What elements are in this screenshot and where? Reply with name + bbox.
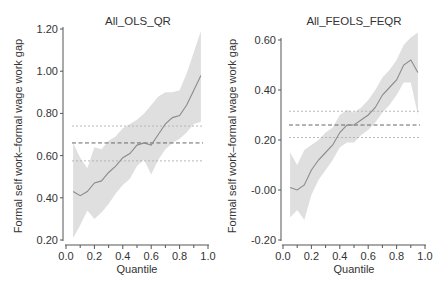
y-tick-label: 0.20 <box>255 134 276 146</box>
x-axis-label: Quantile <box>334 263 375 275</box>
x-tick-label: 0.2 <box>87 250 102 262</box>
y-tick-label: 1.20 <box>37 23 58 35</box>
y-tick-label: 0.60 <box>37 150 58 162</box>
x-tick-label: 0.0 <box>275 250 290 262</box>
x-tick-label: 0.2 <box>304 250 319 262</box>
x-tick-label: 0.4 <box>332 250 347 262</box>
panel-title: All_OLS_QR <box>105 15 171 27</box>
y-tick-label: 1.00 <box>37 65 58 77</box>
x-tick-label: 1.0 <box>200 250 215 262</box>
x-tick-label: 0.6 <box>361 250 376 262</box>
plot-area: 0.200.400.600.801.001.200.00.20.40.60.81… <box>37 23 216 262</box>
y-tick-label: 0.40 <box>255 84 276 96</box>
panel-title: All_FEOLS_FEQR <box>306 15 401 27</box>
x-tick-label: 0.8 <box>389 250 404 262</box>
y-tick-label: -0.20 <box>251 234 276 246</box>
chart-canvas: All_OLS_QR Quantile Formal self work–for… <box>0 0 447 286</box>
panel-all-ols-qr: All_OLS_QR Quantile Formal self work–for… <box>12 15 216 275</box>
plot-area: -0.20-0.000.200.400.600.00.20.40.60.81.0 <box>251 33 433 263</box>
y-axis-label: Formal self work–formal wage work gap <box>12 39 24 233</box>
confidence-band <box>290 33 418 221</box>
y-tick-label: -0.00 <box>251 184 276 196</box>
x-tick-label: 0.6 <box>144 250 159 262</box>
y-tick-label: 0.60 <box>255 34 276 46</box>
y-tick-label: 0.40 <box>37 192 58 204</box>
panel-all-feols-feqr: All_FEOLS_FEQR Quantile Formal self work… <box>226 15 433 275</box>
x-tick-label: 1.0 <box>417 250 432 262</box>
x-tick-label: 0.0 <box>58 250 73 262</box>
y-tick-label: 0.80 <box>37 107 58 119</box>
confidence-band <box>73 31 201 238</box>
y-axis-label: Formal self work–formal wage work gap <box>226 39 238 233</box>
x-axis-label: Quantile <box>117 263 158 275</box>
y-tick-label: 0.20 <box>37 234 58 246</box>
figure: All_OLS_QR Quantile Formal self work–for… <box>0 0 447 286</box>
x-tick-label: 0.8 <box>172 250 187 262</box>
x-tick-label: 0.4 <box>115 250 130 262</box>
